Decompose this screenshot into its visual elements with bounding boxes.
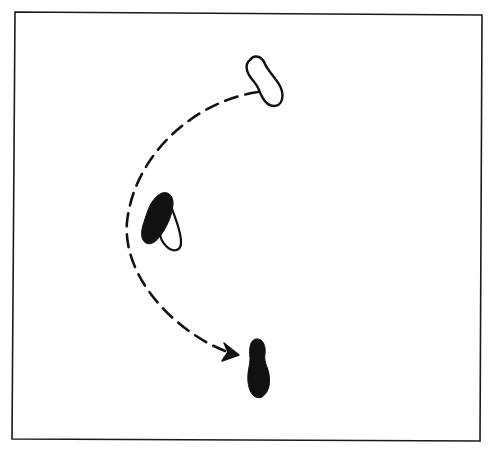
footwork-diagram bbox=[0, 0, 494, 454]
diagram-frame bbox=[12, 12, 482, 441]
